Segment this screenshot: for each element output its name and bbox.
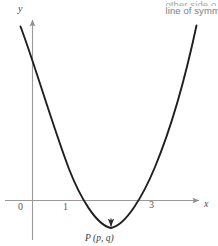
- side-note-annotation: other side o line of symm: [165, 0, 218, 17]
- side-note-line-2: line of symm: [165, 6, 218, 17]
- x-tick-label-1: 1: [63, 201, 68, 212]
- y-axis-label: y: [18, 3, 22, 14]
- x-tick-label-3: 3: [149, 199, 154, 210]
- parabola-figure: [0, 0, 218, 246]
- x-tick-label-0: 0: [18, 201, 23, 212]
- vertex-point-label: P (p, q): [85, 233, 114, 243]
- figure-container: other side o line of symm y x 0 1 3 P (p…: [0, 0, 218, 246]
- x-axis-label: x: [204, 198, 208, 209]
- parabola-curve: [21, 26, 197, 229]
